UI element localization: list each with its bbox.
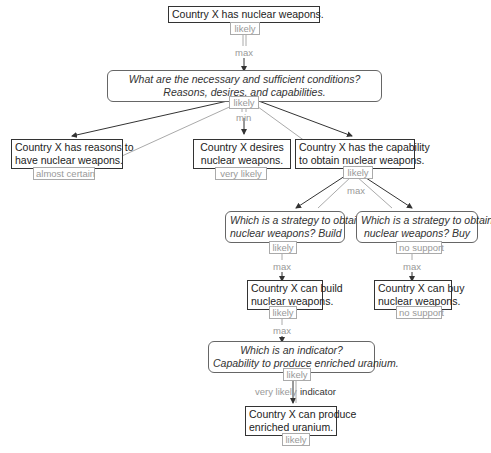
claim-reasons[interactable]: Country X has reasons to have nuclear we… bbox=[11, 139, 123, 169]
rating-badge: likely bbox=[229, 96, 259, 109]
rating-badge: likely bbox=[269, 241, 297, 254]
claim-line1: Country X can produce bbox=[249, 408, 333, 421]
rating-badge: likely bbox=[343, 166, 373, 179]
rating-badge: likely bbox=[282, 433, 310, 446]
claim-line1: Country X has the capability bbox=[299, 141, 411, 154]
rating-badge: no support bbox=[396, 241, 442, 254]
rating-badge: no support bbox=[396, 306, 442, 319]
claim-line2: nuclear weapons. bbox=[197, 154, 287, 167]
rating-badge: very likely bbox=[215, 167, 267, 180]
rating-badge: likely bbox=[230, 22, 260, 35]
claim-has-nuclear-weapons[interactable]: Country X has nuclear weapons. bbox=[168, 6, 320, 23]
claim-line1: Country X can buy bbox=[378, 282, 448, 295]
claim-line2: have nuclear weapons. bbox=[15, 154, 119, 167]
question-line1: Which is an indicator? bbox=[213, 344, 370, 357]
claim-capability[interactable]: Country X has the capability to obtain n… bbox=[295, 139, 415, 169]
rating-badge: almost certain bbox=[33, 167, 95, 180]
rating-badge: likely bbox=[269, 306, 297, 319]
claim-line1: Country X can build bbox=[251, 282, 319, 295]
edge-label-min: min bbox=[236, 112, 251, 123]
claim-text: Country X has nuclear weapons. bbox=[172, 8, 324, 20]
claim-desires[interactable]: Country X desires nuclear weapons. bbox=[193, 139, 291, 169]
question-line1: Which is a strategy to obtain bbox=[230, 214, 340, 227]
edge-label-max: max bbox=[347, 185, 365, 196]
question-line2: nuclear weapons? Build bbox=[230, 227, 340, 240]
question-line1: Which is a strategy to obtain bbox=[361, 214, 473, 227]
edge-label-very-likely: very likely bbox=[255, 386, 297, 397]
edge-label-max: max bbox=[273, 261, 291, 272]
question-line1: What are the necessary and sufficient co… bbox=[112, 73, 377, 86]
question-strategy-buy[interactable]: Which is a strategy to obtain nuclear we… bbox=[356, 211, 478, 243]
question-strategy-build[interactable]: Which is a strategy to obtain nuclear we… bbox=[225, 211, 345, 243]
claim-line1: Country X desires bbox=[197, 141, 287, 154]
edge-label-indicator: indicator bbox=[300, 386, 336, 397]
edge-label-max: max bbox=[273, 325, 291, 336]
claim-line1: Country X has reasons to bbox=[15, 141, 119, 154]
edge-label-max: max bbox=[235, 47, 253, 58]
question-line2: nuclear weapons? Buy bbox=[361, 227, 473, 240]
claim-enriched-uranium[interactable]: Country X can produce enriched uranium. bbox=[245, 406, 337, 436]
rating-badge: likely bbox=[283, 368, 311, 381]
edge-label-max: max bbox=[403, 261, 421, 272]
